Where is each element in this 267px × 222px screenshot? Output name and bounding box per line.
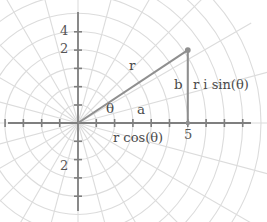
x-tick-5-label: 5 xyxy=(184,128,192,141)
y-tick-neg2-label: 2 xyxy=(60,159,68,172)
imaginary-part-label: r i sin(θ) xyxy=(193,78,249,91)
theta-label: θ xyxy=(106,102,114,116)
radius-label: r xyxy=(129,59,135,73)
real-part-label: r cos(θ) xyxy=(113,131,163,144)
polar-grid-circles xyxy=(0,0,261,222)
complex-point-marker xyxy=(185,47,191,53)
y-tick-2-label: 2 xyxy=(60,42,68,55)
polar-complex-number-figure: 4 2 2 r θ a b r cos(θ) r i sin(θ) 5 xyxy=(0,0,267,222)
figure-canvas xyxy=(0,0,267,222)
y-tick-4-label: 4 xyxy=(60,24,68,37)
polar-grid-rays xyxy=(0,0,267,222)
x-axis-foot-marker xyxy=(186,121,190,125)
real-part-short-label: a xyxy=(137,103,145,117)
imaginary-part-short-label: b xyxy=(174,78,183,92)
